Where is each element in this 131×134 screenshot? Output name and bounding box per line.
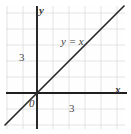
x-axis-tick-label-3: 3 — [69, 103, 75, 114]
x-axis-label: x — [115, 84, 121, 95]
y-axis-label: y — [39, 5, 44, 16]
function-line-y-equals-x — [0, 0, 131, 134]
origin-label: 0 — [29, 98, 35, 109]
y-axis-tick-label-3: 3 — [19, 52, 25, 63]
equation-label: y = x — [61, 36, 84, 47]
coordinate-plane-figure: y x y = x 0 3 3 — [0, 0, 131, 134]
